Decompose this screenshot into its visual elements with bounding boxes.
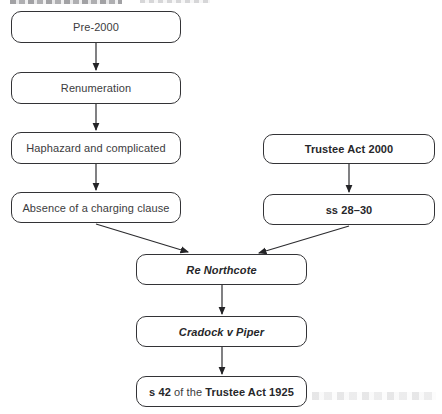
node-haphazard-and-complicated: Haphazard and complicated	[11, 132, 181, 164]
node-trustee-act-2000: Trustee Act 2000	[263, 134, 435, 164]
node-label: s 42 of the Trustee Act 1925	[149, 386, 294, 398]
node-re-northcote: Re Northcote	[136, 254, 307, 285]
node-ss-28-30: ss 28–30	[263, 194, 435, 225]
node-label: Re Northcote	[186, 264, 256, 276]
node-label: Cradock v Piper	[179, 326, 264, 338]
node-pre-2000: Pre-2000	[11, 11, 181, 43]
arrow-ss2830-northcote	[259, 226, 349, 253]
node-s42-trustee-act-1925: s 42 of the Trustee Act 1925	[136, 376, 307, 407]
scan-artifact	[312, 392, 436, 400]
node-label: Pre-2000	[73, 21, 119, 33]
node-label-part-bold: s 42	[149, 386, 171, 398]
node-renumeration: Renumeration	[11, 72, 181, 104]
node-label-part-regular: of the	[171, 386, 205, 398]
node-label: Renumeration	[61, 82, 131, 94]
node-label-part-bold: Trustee Act 1925	[205, 386, 294, 398]
node-label: ss 28–30	[326, 204, 373, 216]
flowchart-canvas: Pre-2000 Renumeration Haphazard and comp…	[0, 0, 442, 414]
node-cradock-v-piper: Cradock v Piper	[136, 316, 307, 347]
node-label: Haphazard and complicated	[26, 142, 165, 154]
arrow-absence-northcote	[96, 224, 188, 252]
node-label: Trustee Act 2000	[305, 143, 394, 155]
node-absence-of-charging-clause: Absence of a charging clause	[11, 192, 181, 223]
node-label: Absence of a charging clause	[22, 202, 169, 214]
